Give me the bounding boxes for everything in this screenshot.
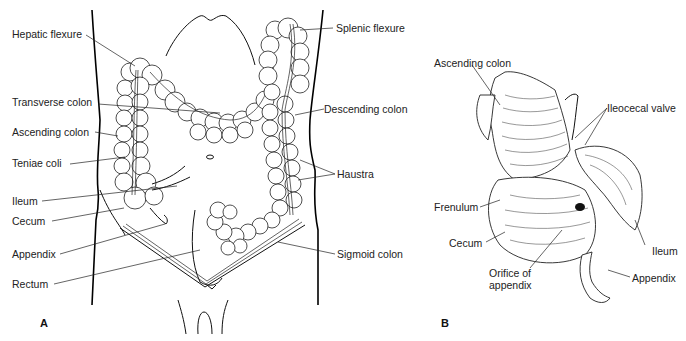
- label-sigmoid-colon: Sigmoid colon: [337, 248, 403, 260]
- label-b-ascending-colon: Ascending colon: [434, 57, 511, 69]
- label-ileum: Ileum: [12, 195, 38, 207]
- appendix-shape: [150, 208, 167, 224]
- descending-colon-shape: [259, 18, 309, 216]
- transverse-colon-shape: [150, 60, 275, 143]
- label-b-orifice-line2: appendix: [489, 279, 532, 291]
- label-b-appendix: Appendix: [632, 272, 676, 284]
- panel-b-letter: B: [441, 317, 449, 329]
- label-teniae-coli: Teniae coli: [12, 157, 62, 169]
- stomach-outline: [166, 15, 255, 65]
- label-b-cecum: Cecum: [449, 237, 482, 249]
- label-splenic-flexure: Splenic flexure: [336, 22, 405, 34]
- label-rectum: Rectum: [12, 278, 48, 290]
- panel-a-letter: A: [40, 317, 48, 329]
- appendix-b-shape: [580, 252, 610, 303]
- label-b-frenulum: Frenulum: [434, 201, 478, 213]
- label-hepatic-flexure: Hepatic flexure: [12, 28, 82, 40]
- label-b-ileum: Ileum: [652, 245, 678, 257]
- label-b-ileocecal-valve: Ileocecal valve: [607, 102, 676, 114]
- label-appendix: Appendix: [12, 248, 56, 260]
- label-cecum: Cecum: [12, 215, 45, 227]
- lower-outline: [178, 300, 186, 334]
- cecum-b-shape: [488, 177, 595, 263]
- ascending-colon-shape: [114, 58, 163, 209]
- label-transverse-colon: Transverse colon: [12, 96, 92, 108]
- appendix-orifice-shape: [575, 203, 585, 211]
- torso-right-outline: [310, 10, 323, 305]
- panel-a-illustration: [42, 10, 335, 334]
- label-descending-colon: Descending colon: [324, 103, 407, 115]
- label-b-orifice-line1: Orifice of: [489, 267, 531, 279]
- ascending-colon-b-shape: [489, 72, 570, 180]
- umbilicus: [207, 155, 214, 159]
- label-haustra: Haustra: [337, 168, 374, 180]
- label-ascending-colon: Ascending colon: [12, 126, 89, 138]
- torso-left-outline: [92, 10, 100, 305]
